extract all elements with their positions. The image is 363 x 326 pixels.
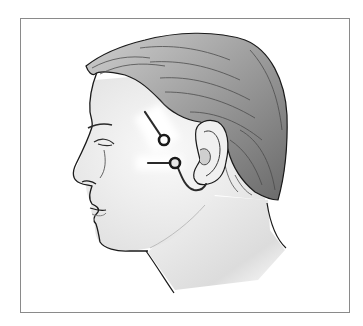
head-profile-illustration <box>0 0 363 326</box>
